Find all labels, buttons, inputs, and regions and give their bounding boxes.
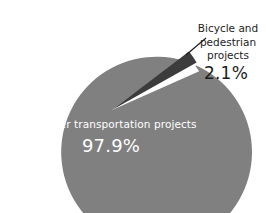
callout-leader-line [186,38,206,55]
pie-chart: All other transportation projects 97.9% … [0,0,266,213]
pie-chart-graphic [0,0,266,213]
